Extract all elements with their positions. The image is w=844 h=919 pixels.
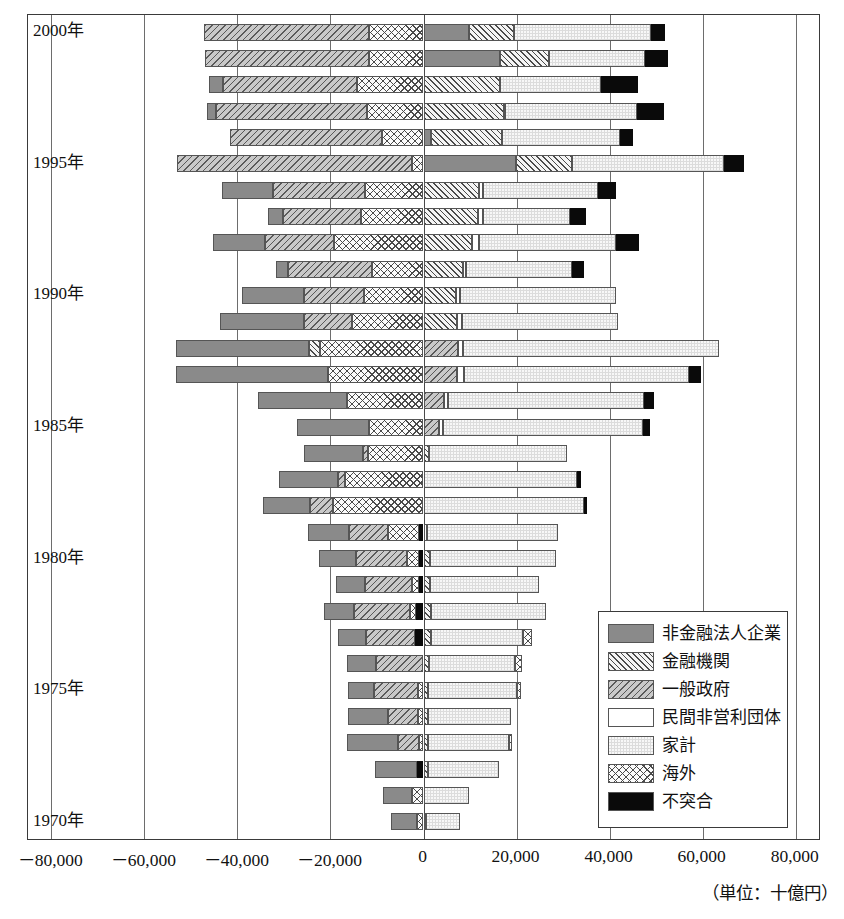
- bar-segment-gov: [424, 366, 458, 383]
- bar-row: [28, 366, 819, 383]
- bar-segment-abroad: [365, 182, 424, 199]
- bar-segment-corp: [375, 761, 417, 778]
- bar-segment-disc: [417, 761, 424, 778]
- bar-segment-gov: [374, 682, 418, 699]
- bar-segment-house: [426, 813, 460, 830]
- bar-segment-house: [431, 603, 546, 620]
- bar-segment-corp: [424, 129, 432, 146]
- bar-segment-house: [431, 629, 523, 646]
- bar-segment-house: [424, 787, 469, 804]
- bar-segment-gov: [388, 708, 418, 725]
- bar-segment-gov: [398, 734, 419, 751]
- legend-label-house: 家計: [662, 736, 696, 755]
- bar-row: [28, 261, 819, 278]
- bar-segment-corp: [279, 471, 338, 488]
- bar-segment-house: [430, 576, 539, 593]
- bar-segment-house: [514, 24, 651, 41]
- bar-segment-npo: [472, 234, 479, 251]
- legend-swatch-disc: [608, 792, 654, 811]
- bar-segment-gov: [363, 445, 368, 462]
- bar-segment-gov: [365, 576, 412, 593]
- bar-segment-disc: [584, 497, 587, 514]
- bar-segment-abroad: [334, 234, 423, 251]
- bar-segment-corp: [263, 497, 310, 514]
- bar-row: [28, 550, 819, 567]
- bar-segment-disc: [637, 103, 664, 120]
- legend-swatch-abroad: [608, 764, 654, 783]
- bar-segment-abroad: [523, 629, 532, 646]
- bar-segment-house: [428, 734, 509, 751]
- legend-label-fin: 金融機関: [662, 652, 730, 671]
- bar-segment-house: [466, 261, 572, 278]
- bar-segment-corp: [207, 103, 216, 120]
- bar-row: [28, 50, 819, 67]
- bar-segment-fin: [424, 76, 500, 93]
- bar-segment-corp: [209, 76, 223, 93]
- x-tick--40000: －40,000: [204, 846, 269, 871]
- bar-segment-corp: [319, 550, 356, 567]
- bar-row: [28, 497, 819, 514]
- chart-page: 2000年1995年1990年1985年1980年1975年1970年 －80,…: [0, 0, 844, 919]
- bar-segment-fin: [431, 129, 502, 146]
- legend-label-gov: 一般政府: [662, 680, 730, 699]
- bar-segment-gov: [376, 655, 424, 672]
- bar-segment-gov: [424, 340, 459, 357]
- legend-swatch-npo: [608, 708, 654, 727]
- bar-segment-abroad: [352, 313, 423, 330]
- x-tick--60000: －60,000: [111, 846, 176, 871]
- legend-swatch-fin: [608, 652, 654, 671]
- bar-row: [28, 234, 819, 251]
- bar-segment-corp: [424, 24, 470, 41]
- bar-segment-gov: [283, 208, 361, 225]
- bar-segment-house: [483, 182, 598, 199]
- bar-row: [28, 208, 819, 225]
- bar-segment-house: [424, 497, 584, 514]
- x-axis: －80,000－60,000－40,000－20,000020,00040,00…: [27, 846, 820, 872]
- bar-segment-fin: [424, 313, 458, 330]
- bar-segment-corp: [324, 603, 353, 620]
- bar-segment-gov: [205, 50, 369, 67]
- bar-segment-corp: [347, 655, 376, 672]
- bar-segment-corp: [383, 787, 413, 804]
- bar-segment-gov: [354, 603, 410, 620]
- bar-segment-corp: [348, 682, 374, 699]
- bar-segment-abroad: [361, 208, 424, 225]
- bar-segment-house: [502, 129, 620, 146]
- legend: 非金融法人企業金融機関一般政府民間非営利団体家計海外不突合: [598, 611, 788, 828]
- bar-segment-house: [572, 155, 723, 172]
- bar-segment-disc: [601, 76, 638, 93]
- bar-segment-house: [549, 50, 645, 67]
- bar-segment-disc: [645, 50, 668, 67]
- bar-segment-corp: [258, 392, 346, 409]
- bar-segment-abroad: [369, 24, 423, 41]
- bar-segment-abroad: [382, 129, 424, 146]
- bar-segment-abroad: [368, 445, 424, 462]
- legend-swatch-corp: [608, 624, 654, 643]
- bar-segment-abroad: [364, 287, 424, 304]
- year-label-2000: 2000年: [33, 22, 84, 39]
- bar-segment-house: [443, 419, 644, 436]
- bar-segment-fin: [516, 155, 573, 172]
- bar-segment-house: [429, 655, 516, 672]
- bar-segment-abroad: [412, 787, 423, 804]
- year-label-1975: 1975年: [33, 680, 84, 697]
- bar-segment-corp: [338, 629, 366, 646]
- bar-row: [28, 155, 819, 172]
- bar-segment-house: [429, 445, 567, 462]
- bar-segment-gov: [366, 629, 414, 646]
- bar-segment-fin: [424, 208, 478, 225]
- bar-segment-house: [427, 524, 559, 541]
- bar-segment-corp: [297, 419, 369, 436]
- bar-segment-fin: [424, 287, 457, 304]
- year-label-1970: 1970年: [33, 812, 84, 829]
- unit-note: （単位：十億円）: [702, 879, 838, 904]
- bar-segment-corp: [276, 261, 289, 278]
- bar-segment-abroad: [369, 419, 423, 436]
- legend-item-npo: 民間非営利団体: [608, 703, 787, 731]
- bar-segment-house: [424, 471, 577, 488]
- legend-item-corp: 非金融法人企業: [608, 619, 787, 647]
- bar-segment-corp: [424, 155, 516, 172]
- bar-segment-fin: [424, 629, 432, 646]
- legend-item-fin: 金融機関: [608, 647, 787, 675]
- bar-row: [28, 576, 819, 593]
